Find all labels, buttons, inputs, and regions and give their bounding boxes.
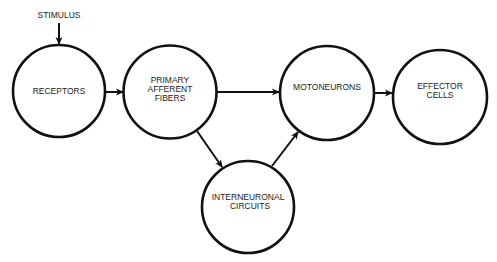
node-afferent-label-line3: FIBERS [155,93,186,103]
node-receptors: RECEPTORS [13,45,105,137]
node-primary-afferent-fibers: PRIMARY AFFERENT FIBERS [124,46,217,139]
stimulus-label: STIMULUS [38,10,81,20]
node-receptors-label: RECEPTORS [33,86,86,96]
node-interneuronal-circuits: INTERNEURONAL CIRCUITS [202,161,294,253]
node-interneuronal-label-line2: CIRCUITS [230,201,270,211]
node-motoneurons: MOTONEURONS [280,46,374,140]
node-motoneurons-label: MOTONEURONS [293,82,361,92]
node-effector-cells: EFFECTOR CELLS [393,50,487,144]
edge-interneuronal-to-motoneurons [272,132,298,166]
neural-pathway-diagram: STIMULUS RECEPTORS PRIMARY AFFERENT FIBE… [0,0,497,262]
edge-afferent-to-interneuronal [197,131,222,167]
node-effector-label-line2: CELLS [427,90,454,100]
